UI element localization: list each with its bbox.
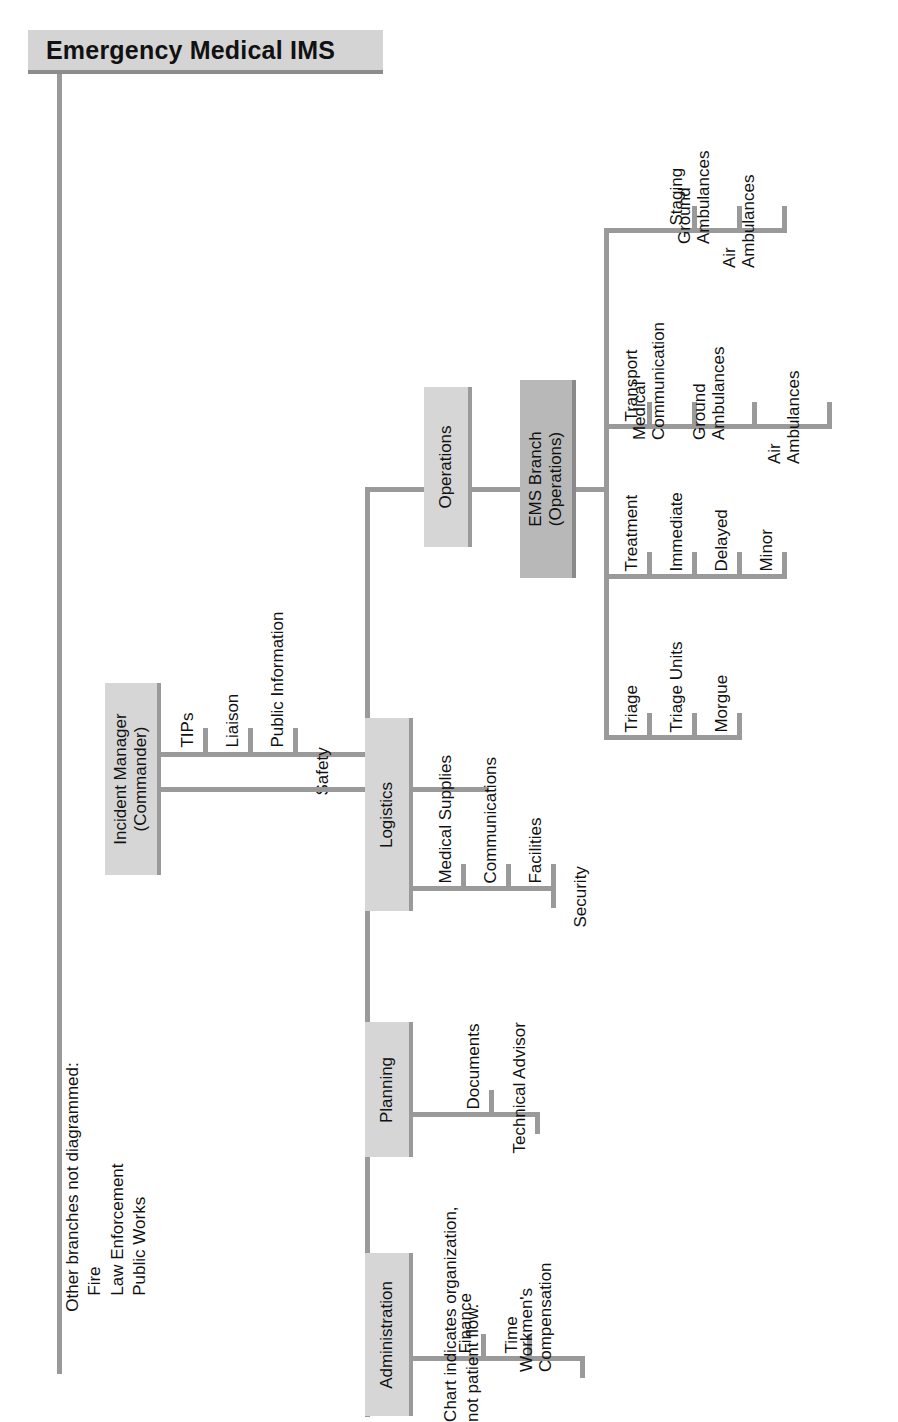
staging-label-air-ambulances: Air Ambulances [720, 175, 758, 269]
treatment-label-delayed: Delayed [712, 509, 732, 571]
note-other-branches-item-law-enforcement: Law Enforcement [107, 1062, 129, 1311]
logistics-stub-facilities [551, 864, 556, 888]
note-other-branches-item-public-works: Public Works [130, 1062, 152, 1311]
operations-to-spine [365, 487, 424, 492]
logistics-label-medical-supplies: Medical Supplies [436, 755, 456, 884]
triage-bus-cap [737, 713, 742, 737]
staff-stub-public-information [293, 728, 298, 754]
logistics-child-bus [413, 886, 556, 891]
logistics-stub-medical-supplies [461, 864, 466, 888]
treatment-stub-head [647, 552, 652, 576]
planning-bus-cap [535, 1112, 540, 1134]
node-administration-label: Administration [377, 1281, 397, 1389]
administration-bus-cap [580, 1356, 585, 1378]
node-incident-manager[interactable]: Incident Manager (Commander) [105, 683, 161, 875]
transport-label-ground-ambulances: Ground Ambulances [690, 347, 728, 441]
administration-child-bus [413, 1356, 585, 1361]
treatment-label-minor: Minor [757, 529, 777, 572]
transport-label-medical-communication: Medical Communication [630, 322, 668, 440]
treatment-bus-cap [782, 552, 787, 576]
logistics-bus-cap [551, 886, 556, 908]
operations-to-ems-branch [472, 487, 520, 492]
treatment-label-head: Treatment [622, 495, 642, 572]
treatment-stub-delayed [737, 552, 742, 576]
node-ems-branch[interactable]: EMS Branch (Operations) [520, 380, 576, 578]
staging-bus-cap [782, 206, 787, 230]
node-operations[interactable]: Operations [424, 387, 472, 547]
transport-label-air-ambulances: Air Ambulances [765, 371, 803, 465]
logistics-label-security: Security [571, 866, 591, 927]
ems-group-spine [604, 228, 609, 740]
staging-label-ground-ambulances: Ground Ambulances [675, 151, 713, 245]
note-other-branches-item-fire: Fire [85, 1062, 107, 1311]
page-title: Emergency Medical IMS [46, 36, 335, 65]
treatment-label-immediate: Immediate [667, 492, 687, 571]
node-operations-label: Operations [436, 425, 456, 508]
node-logistics-label: Logistics [377, 781, 397, 847]
triage-label-morgue: Morgue [712, 675, 732, 733]
logistics-label-communications: Communications [481, 757, 501, 884]
node-ems-branch-label: EMS Branch (Operations) [526, 431, 566, 526]
node-planning[interactable]: Planning [365, 1022, 413, 1157]
note-flow-line1: Chart indicates organization, [440, 1206, 462, 1421]
transport-bus-cap [827, 402, 832, 426]
trunk-line-vertical [57, 74, 62, 1374]
chart-title-box: Emergency Medical IMS [28, 30, 383, 74]
command-staff-bus [161, 752, 391, 757]
note-other-branches: Other branches not diagrammed: Fire Law … [62, 1062, 152, 1311]
administration-label-workmens-compensation: Workmen's Compensation [517, 1262, 555, 1372]
triage-stub-head [647, 713, 652, 737]
logistics-stub-communications [506, 864, 511, 888]
triage-group-bus [604, 735, 742, 740]
staff-label-tips: TIPs [178, 713, 198, 748]
node-planning-label: Planning [377, 1056, 397, 1122]
node-incident-manager-label: Incident Manager (Commander) [111, 713, 151, 844]
node-administration[interactable]: Administration [365, 1253, 413, 1416]
note-flow-line2: not patient flow. [463, 1206, 485, 1421]
staff-stub-tips [203, 728, 208, 754]
planning-stub-documents [489, 1090, 494, 1114]
planning-label-technical-advisor: Technical Advisor [510, 1022, 530, 1153]
note-flow: Chart indicates organization, not patien… [440, 1206, 485, 1421]
node-logistics[interactable]: Logistics [365, 718, 413, 911]
triage-stub-triage-units [692, 713, 697, 737]
logistics-label-facilities: Facilities [526, 817, 546, 883]
transport-stub-ground-ambulances [752, 402, 757, 426]
staff-stub-liaison [248, 728, 253, 754]
staff-label-public-information: Public Information [268, 611, 288, 747]
triage-label-triage-units: Triage Units [667, 642, 687, 733]
note-other-branches-heading: Other branches not diagrammed: [62, 1062, 84, 1311]
staff-label-liaison: Liaison [223, 694, 243, 748]
triage-label-head: Triage [622, 685, 642, 733]
treatment-stub-immediate [692, 552, 697, 576]
planning-label-documents: Documents [464, 1024, 484, 1110]
